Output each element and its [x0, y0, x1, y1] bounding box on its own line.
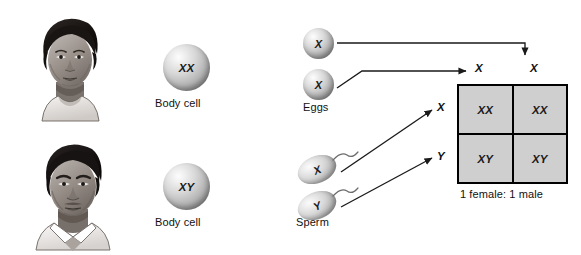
body-cell-male-genotype: XY — [179, 181, 194, 193]
punnett-square: XX XX XY XY — [457, 84, 568, 184]
punnett-column-header-2: X — [530, 62, 538, 74]
body-cell-female: XX — [163, 44, 210, 91]
arrow-egg1-to-column2 — [337, 43, 525, 55]
punnett-cell-r1c2: XX — [514, 86, 567, 133]
male-portrait-illustration — [20, 133, 125, 251]
punnett-row-header-1: X — [437, 101, 445, 113]
egg-cell-1-genotype: X — [315, 38, 322, 50]
punnett-cell-r1c1: XX — [459, 86, 512, 133]
eggs-label: Eggs — [303, 101, 328, 113]
female-portrait-illustration — [20, 8, 120, 123]
punnett-column-header-1: X — [475, 62, 483, 74]
arrow-sperm1-to-row1 — [341, 110, 432, 172]
body-cell-female-label: Body cell — [155, 97, 201, 109]
body-cell-female-genotype: XX — [179, 62, 194, 74]
arrow-egg2-to-column1 — [337, 71, 466, 88]
egg-cell-1: X — [303, 28, 334, 59]
punnett-row-header-2: Y — [437, 150, 445, 162]
egg-cell-2: X — [303, 69, 334, 100]
male-portrait — [20, 133, 125, 251]
arrow-sperm2-to-row2 — [341, 158, 432, 207]
sex-determination-diagram: XX Body cell XY Body cell X X Eggs X Y S… — [0, 0, 581, 255]
ratio-caption: 1 female: 1 male — [460, 188, 543, 200]
sperm-cell-1-genotype: X — [293, 149, 340, 189]
body-cell-male-label: Body cell — [155, 216, 201, 228]
body-cell-male: XY — [163, 163, 210, 210]
egg-cell-2-genotype: X — [315, 79, 322, 91]
punnett-cell-r2c1: XY — [459, 135, 512, 182]
sperm-cell-1: X — [297, 156, 339, 185]
punnett-cell-r2c2: XY — [514, 135, 567, 182]
sperm-label: Sperm — [296, 216, 329, 228]
female-portrait — [20, 8, 120, 123]
